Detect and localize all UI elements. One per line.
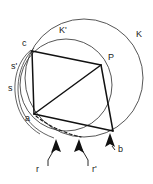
arrow-head-r-prime xyxy=(74,139,84,153)
chord-c-p xyxy=(32,51,101,65)
label-arrow-r-prime: r' xyxy=(92,164,97,174)
label-vertex-a: a xyxy=(25,113,30,123)
geometry-figure: K K' c P a b s' s r r' xyxy=(0,0,153,184)
label-circle-k-prime: K' xyxy=(59,25,67,35)
arrow-head-b xyxy=(105,133,115,147)
geometry-canvas: K K' c P a b s' s r r' xyxy=(0,0,153,184)
label-arc-s-prime: s' xyxy=(11,61,18,71)
chord-c-a xyxy=(32,51,34,114)
label-arc-s: s xyxy=(8,83,13,93)
label-vertex-c: c xyxy=(22,38,27,48)
label-vertex-p: P xyxy=(108,52,114,62)
label-arrow-r: r xyxy=(36,164,39,174)
label-vertex-b: b xyxy=(118,144,123,154)
chord-a-p-diagonal xyxy=(34,65,101,114)
label-circle-k: K xyxy=(136,29,142,39)
arc-s xyxy=(18,48,54,138)
arrow-head-r xyxy=(51,139,61,153)
